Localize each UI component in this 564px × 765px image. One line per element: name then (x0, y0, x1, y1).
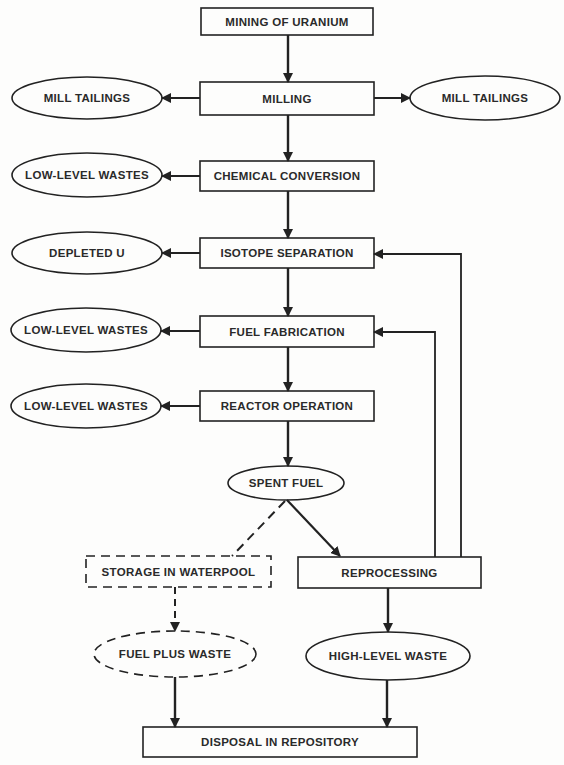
node-storage-waterpool: STORAGE IN WATERPOOL (86, 556, 271, 587)
feedback-reprocessing-isotope (374, 254, 461, 557)
node-llw-reactor: LOW-LEVEL WASTES (11, 384, 161, 428)
node-milling: MILLING (200, 82, 374, 115)
node-fuel-fabrication: FUEL FABRICATION (200, 316, 374, 347)
node-llw-conversion: LOW-LEVEL WASTES (12, 153, 162, 197)
fuel-cycle-diagram: MINING OF URANIUM MILLING MILL TAILINGS … (0, 0, 564, 765)
node-spent-fuel: SPENT FUEL (228, 466, 344, 500)
node-fuel-plus-waste: FUEL PLUS WASTE (94, 631, 256, 677)
node-isotope-separation: ISOTOPE SEPARATION (200, 238, 374, 268)
node-mill-tailings-left: MILL TAILINGS (12, 77, 162, 119)
arrow-spent-reprocessing (287, 500, 340, 556)
dashed-spent-storage (232, 501, 285, 556)
node-disposal: DISPOSAL IN REPOSITORY (143, 727, 417, 757)
node-chemical-conversion: CHEMICAL CONVERSION (200, 161, 374, 191)
node-depleted-u: DEPLETED U (12, 232, 162, 274)
node-mining: MINING OF URANIUM (201, 8, 373, 35)
node-reprocessing: REPROCESSING (298, 557, 481, 588)
node-high-level-waste: HIGH-LEVEL WASTE (306, 632, 470, 680)
feedback-reprocessing-fabrication (374, 332, 435, 557)
node-llw-fabrication: LOW-LEVEL WASTES (11, 308, 161, 352)
node-reactor-operation: REACTOR OPERATION (200, 391, 374, 421)
node-mill-tailings-right: MILL TAILINGS (410, 76, 560, 120)
